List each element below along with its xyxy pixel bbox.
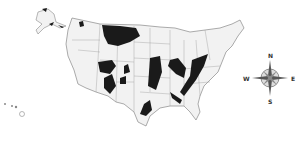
- compass-east-label: E: [291, 75, 295, 82]
- compass-west-label: W: [243, 75, 250, 82]
- compass-rose-icon: [250, 58, 290, 98]
- hawaii-inset: [4, 103, 25, 117]
- compass-north-label: N: [268, 52, 273, 59]
- alaska-inset: [36, 8, 66, 34]
- us-map: N S E W: [0, 0, 298, 147]
- compass-south-label: S: [268, 98, 272, 105]
